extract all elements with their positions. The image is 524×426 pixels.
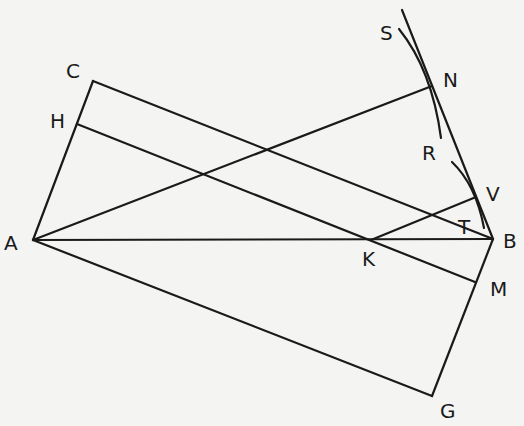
label-T: T <box>457 215 471 239</box>
segment-AB <box>33 239 493 240</box>
label-S: S <box>380 21 393 45</box>
label-A: A <box>4 231 18 255</box>
segment-GB <box>432 239 493 396</box>
lines <box>33 10 493 396</box>
label-C: C <box>66 59 80 83</box>
segment-AN <box>33 86 432 240</box>
label-V: V <box>486 182 500 206</box>
segment-AC <box>33 81 93 240</box>
label-B: B <box>503 229 517 253</box>
label-M: M <box>490 277 507 301</box>
tangent-line <box>402 10 493 239</box>
label-R: R <box>422 141 436 165</box>
arc-SNR <box>399 29 441 138</box>
label-H: H <box>50 109 65 133</box>
label-K: K <box>362 247 376 271</box>
segment-HM <box>77 124 475 282</box>
geometry-diagram: C H A S N R V T B K M G <box>0 0 524 426</box>
label-N: N <box>443 68 458 92</box>
label-G: G <box>440 399 456 423</box>
